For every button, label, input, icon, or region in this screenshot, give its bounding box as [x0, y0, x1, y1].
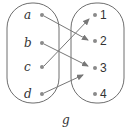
codomain-label-4: 4: [100, 87, 107, 101]
domain-label-c: c: [24, 60, 31, 74]
domain-label-b: b: [24, 36, 32, 50]
arrow-d-to-3: [44, 75, 83, 93]
domain-set-oval: [7, 3, 59, 103]
arrow-c-to-1: [44, 19, 89, 66]
function-name-caption: g: [62, 113, 70, 127]
domain-dot-d: [40, 92, 44, 96]
domain-dot-c: [40, 65, 44, 69]
codomain-set-oval: [71, 3, 124, 103]
domain-dot-b: [40, 41, 44, 45]
codomain-label-3: 3: [100, 61, 107, 75]
domain-dot-a: [40, 13, 44, 17]
codomain-dot-4: [93, 92, 97, 96]
codomain-dot-2: [93, 39, 97, 43]
codomain-label-1: 1: [100, 8, 107, 22]
arrow-a-to-2: [44, 16, 88, 40]
function-mapping-diagram: a b c d 1 2 3 4 g: [0, 0, 131, 131]
arrow-b-to-3: [44, 44, 88, 66]
codomain-dot-1: [93, 13, 97, 17]
domain-label-d: d: [24, 87, 32, 101]
codomain-label-2: 2: [100, 34, 107, 48]
codomain-dot-3: [93, 66, 97, 70]
domain-label-a: a: [24, 8, 31, 22]
